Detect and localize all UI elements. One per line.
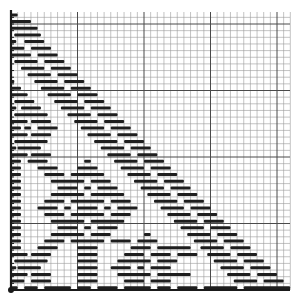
task-bar <box>157 260 177 263</box>
task-bar <box>234 280 257 283</box>
task-bar <box>11 233 21 236</box>
task-bar <box>58 186 78 189</box>
task-bar <box>11 47 24 50</box>
task-bar <box>177 286 197 289</box>
task-bar <box>11 53 31 56</box>
task-bar <box>264 280 284 283</box>
task-bar <box>104 120 124 123</box>
task-bar <box>58 226 78 229</box>
task-bar <box>111 266 131 269</box>
task-bar <box>161 206 184 209</box>
task-bar <box>78 206 98 209</box>
task-bar <box>237 253 257 256</box>
task-bar <box>157 286 170 289</box>
task-bar <box>44 200 64 203</box>
task-bar <box>184 200 204 203</box>
task-bar <box>84 100 104 103</box>
task-bar <box>71 87 91 90</box>
task-bar <box>44 213 64 216</box>
task-bar <box>257 273 277 276</box>
task-bar <box>78 280 98 283</box>
task-bar <box>31 120 51 123</box>
task-bar <box>31 47 51 50</box>
task-bar <box>14 113 47 116</box>
task-bar <box>197 213 217 216</box>
task-bar <box>98 186 118 189</box>
task-bar <box>38 53 58 56</box>
task-bar <box>11 153 28 156</box>
gantt-grid-diagram <box>0 0 301 300</box>
task-bar <box>64 80 84 83</box>
task-bar <box>31 133 51 136</box>
task-bar <box>214 260 237 263</box>
task-bar <box>61 107 84 110</box>
task-bar <box>94 140 117 143</box>
task-bar <box>54 100 77 103</box>
task-bar <box>28 73 51 76</box>
task-bar <box>151 280 171 283</box>
task-bar <box>18 266 41 269</box>
task-bar <box>204 286 237 289</box>
task-bar <box>11 167 21 170</box>
task-bar <box>191 206 211 209</box>
task-bar <box>11 200 21 203</box>
task-bar <box>11 20 31 23</box>
task-bar <box>211 226 231 229</box>
task-bar <box>11 240 21 243</box>
task-bar <box>18 147 41 150</box>
task-bar <box>111 213 131 216</box>
task-bar <box>117 206 137 209</box>
task-bar <box>14 34 41 37</box>
task-bar <box>157 246 190 249</box>
task-bar <box>48 93 71 96</box>
task-bar <box>58 73 78 76</box>
task-bar <box>78 93 98 96</box>
task-bar <box>88 133 111 136</box>
task-bar <box>78 260 98 263</box>
task-bar <box>207 253 230 256</box>
task-bar <box>34 80 57 83</box>
task-bar <box>31 153 51 156</box>
task-bar <box>111 127 131 130</box>
task-bar <box>201 246 224 249</box>
task-bar <box>217 233 237 236</box>
task-bar <box>11 280 24 283</box>
task-bar <box>31 280 51 283</box>
task-bar <box>11 133 28 136</box>
task-bar <box>51 220 84 223</box>
task-bar <box>44 60 64 63</box>
task-bar <box>101 147 124 150</box>
task-bar <box>117 260 150 263</box>
task-bar <box>71 240 104 243</box>
task-bar <box>177 193 197 196</box>
task-bar <box>91 233 111 236</box>
task-bar <box>21 67 44 70</box>
task-bar <box>78 253 98 256</box>
task-bar <box>121 167 144 170</box>
task-bar <box>117 133 137 136</box>
task-bar <box>51 193 84 196</box>
task-bar <box>124 286 151 289</box>
task-bar <box>44 286 71 289</box>
task-bar <box>74 120 97 123</box>
task-bar <box>11 120 28 123</box>
task-bar <box>154 200 177 203</box>
task-bar <box>14 140 47 143</box>
task-bar <box>131 147 151 150</box>
task-bar <box>181 226 204 229</box>
task-bar <box>51 67 71 70</box>
task-bar <box>91 193 124 196</box>
task-bar <box>14 60 37 63</box>
task-bar <box>11 226 21 229</box>
task-bar <box>21 107 41 110</box>
task-bar <box>91 107 111 110</box>
task-bar <box>244 260 264 263</box>
task-bar <box>11 93 28 96</box>
axes <box>8 10 290 293</box>
task-bar <box>38 246 58 249</box>
task-bar <box>204 220 224 223</box>
task-bar <box>24 40 44 43</box>
task-bar <box>167 213 190 216</box>
task-bar <box>127 173 150 176</box>
task-bar <box>68 113 91 116</box>
